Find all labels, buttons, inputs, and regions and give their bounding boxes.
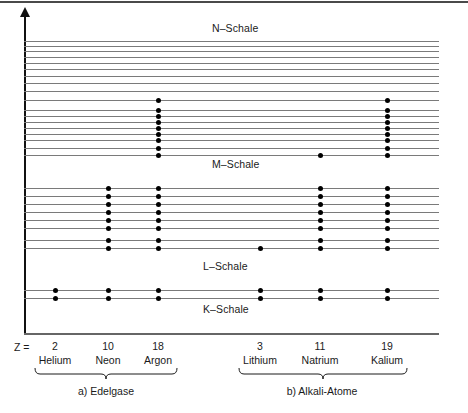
energy-level-line (24, 134, 439, 135)
energy-level-line (24, 290, 439, 291)
energy-level-line (24, 148, 439, 149)
energy-level-line (24, 100, 439, 101)
energy-level-line (24, 51, 439, 52)
electron-dot (156, 226, 161, 231)
energy-level-line (24, 41, 439, 42)
electron-dot (385, 108, 390, 113)
electron-dot (385, 296, 390, 301)
electron-dot (385, 210, 390, 215)
element-name-kalium: Kalium (371, 354, 403, 366)
electron-dot (53, 288, 58, 293)
energy-level-line (24, 140, 439, 141)
energy-level-line (24, 128, 439, 129)
electron-dot (106, 238, 111, 243)
energy-level-line (24, 63, 439, 64)
energy-level-line (24, 110, 439, 111)
electron-dot (106, 210, 111, 215)
electron-dot (258, 296, 263, 301)
electron-dot (106, 296, 111, 301)
energy-level-line (24, 298, 439, 299)
energy-level-line (24, 188, 439, 189)
energy-axis (24, 14, 26, 334)
electron-dot (156, 138, 161, 143)
energy-level-line (24, 204, 439, 205)
element-name-neon: Neon (95, 354, 120, 366)
electron-dot (156, 114, 161, 119)
energy-level-line (24, 248, 439, 249)
electron-dot (156, 238, 161, 243)
electron-dot (106, 218, 111, 223)
electron-dot (385, 226, 390, 231)
electron-dot (385, 186, 390, 191)
electron-dot (385, 120, 390, 125)
energy-level-line (24, 91, 439, 92)
energy-level-line (24, 228, 439, 229)
electron-dot (156, 210, 161, 215)
group-brace-edelgase (34, 367, 178, 380)
electron-dot (106, 186, 111, 191)
group-brace-alkali-atome (238, 367, 408, 380)
electron-dot (318, 210, 323, 215)
atomic-number-helium: 2 (52, 340, 58, 352)
electron-dot (385, 114, 390, 119)
electron-dot (318, 238, 323, 243)
atomic-number-kalium: 19 (381, 340, 393, 352)
energy-level-line (24, 122, 439, 123)
electron-dot (156, 194, 161, 199)
energy-level-line (24, 116, 439, 117)
electron-dot (156, 218, 161, 223)
group-caption-alkali-atome: b) Alkali-Atome (287, 385, 358, 397)
electron-dot (385, 218, 390, 223)
electron-dot (258, 288, 263, 293)
electron-dot (318, 186, 323, 191)
z-axis-label: Z = (14, 341, 29, 353)
electron-dot (156, 296, 161, 301)
energy-level-line (24, 240, 439, 241)
electron-dot (156, 126, 161, 131)
electron-dot (156, 246, 161, 251)
electron-dot (258, 246, 263, 251)
electron-dot (385, 153, 390, 158)
electron-dot (385, 202, 390, 207)
electron-dot (156, 146, 161, 151)
energy-level-line (24, 83, 439, 84)
atomic-number-natrium: 11 (315, 340, 326, 352)
electron-dot (318, 218, 323, 223)
electron-dot (385, 132, 390, 137)
electron-dot (318, 296, 323, 301)
element-name-helium: Helium (39, 354, 72, 366)
electron-dot (385, 288, 390, 293)
electron-dot (385, 238, 390, 243)
group-caption-edelgase: a) Edelgase (78, 385, 134, 397)
element-name-natrium: Natrium (302, 354, 339, 366)
electron-dot (156, 108, 161, 113)
page-top-rule (0, 1, 468, 3)
energy-level-line (24, 46, 439, 47)
atomic-number-neon: 10 (102, 340, 114, 352)
electron-dot (385, 246, 390, 251)
electron-dot (318, 194, 323, 199)
element-axis (24, 333, 439, 335)
electron-dot (156, 186, 161, 191)
energy-level-line (24, 69, 439, 70)
electron-dot (385, 126, 390, 131)
shell-label-k-schale: K–Schale (203, 303, 249, 315)
electron-dot (156, 132, 161, 137)
electron-dot (385, 98, 390, 103)
element-name-argon: Argon (144, 354, 172, 366)
electron-dot (318, 202, 323, 207)
electron-dot (318, 226, 323, 231)
electron-dot (385, 194, 390, 199)
electron-dot (106, 288, 111, 293)
atomic-number-argon: 18 (152, 340, 164, 352)
energy-level-line (24, 220, 439, 221)
energy-level-diagram: N–SchaleM–SchaleL–SchaleK–Schale Z = 2He… (0, 0, 468, 413)
energy-level-line (24, 212, 439, 213)
element-name-lithium: Lithium (243, 354, 277, 366)
electron-dot (106, 226, 111, 231)
electron-dot (385, 138, 390, 143)
electron-dot (156, 98, 161, 103)
energy-level-line (24, 76, 439, 77)
electron-dot (318, 153, 323, 158)
electron-dot (318, 288, 323, 293)
